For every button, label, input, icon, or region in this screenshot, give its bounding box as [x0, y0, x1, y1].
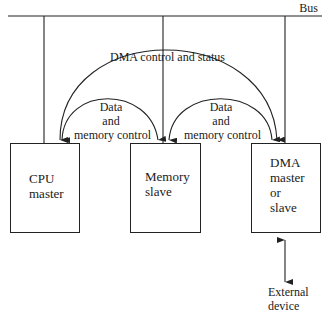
label-line: memory control: [74, 128, 148, 142]
node-label: Memory: [145, 169, 190, 184]
cpu-node: CPU master: [10, 143, 80, 233]
bus-label: Bus: [299, 1, 318, 15]
label-line: External: [268, 285, 309, 299]
label-line: and: [184, 114, 258, 128]
dma-node: DMA master or slave: [251, 143, 321, 233]
node-label: slave: [145, 184, 190, 199]
label-line: Data: [74, 100, 148, 114]
label-line: Data: [184, 100, 258, 114]
dma-control-label: DMA control and status: [110, 50, 225, 64]
node-label: slave: [270, 200, 305, 215]
label-line: memory control: [184, 128, 258, 142]
node-label: master: [270, 170, 305, 185]
node-label: DMA: [270, 155, 305, 170]
external-device-label: External device: [268, 285, 309, 313]
left-data-label: Data and memory control: [74, 100, 148, 142]
label-line: device: [268, 299, 309, 313]
label-line: and: [74, 114, 148, 128]
node-label: master: [29, 186, 64, 201]
node-label: CPU: [29, 171, 64, 186]
right-data-label: Data and memory control: [184, 100, 258, 142]
memory-node: Memory slave: [130, 143, 201, 233]
node-label: or: [270, 185, 305, 200]
